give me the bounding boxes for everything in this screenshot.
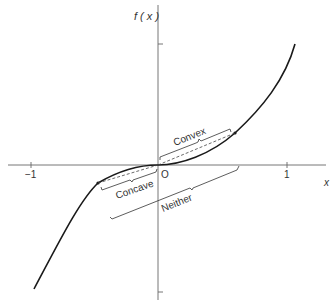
axes bbox=[8, 5, 326, 300]
origin-label: O bbox=[161, 169, 169, 180]
y-axis-label: f ( x ) bbox=[134, 10, 159, 22]
x-tick-label-one: 1 bbox=[284, 169, 290, 180]
function-curve bbox=[34, 44, 295, 289]
x-tick-label-neg-one: −1 bbox=[25, 169, 37, 180]
concave-label: Concave bbox=[114, 177, 155, 200]
convex-label: Convex bbox=[172, 125, 208, 148]
convex-endpoint bbox=[233, 131, 236, 134]
x-axis-label: x bbox=[323, 177, 330, 188]
neither-label: Neither bbox=[160, 191, 195, 214]
convexity-diagram: f ( x ) x O −1 1 Convex Concave Neither bbox=[0, 0, 336, 307]
